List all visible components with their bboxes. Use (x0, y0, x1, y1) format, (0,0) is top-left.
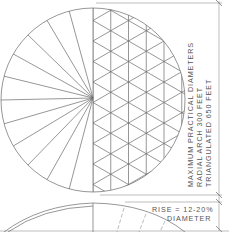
radial-arch-ribs (1, 11, 93, 189)
label-line-1: MAXIMUM PRACTICAL DIAMETERS (186, 42, 195, 187)
inner-shell (8, 206, 93, 232)
plan-view (0, 0, 200, 232)
rise-line-1: RISE = 12-20% (152, 205, 213, 214)
label-line-2: RADIAL ARCH 300 FEET (195, 87, 204, 187)
rise-label: RISE = 12-20% DIAMETER (152, 205, 213, 223)
outer-shell (4, 203, 93, 232)
rise-line-2: DIAMETER (167, 214, 211, 223)
diameter-label: MAXIMUM PRACTICAL DIAMETERS RADIAL ARCH … (186, 42, 213, 187)
dome-diagram: MAXIMUM PRACTICAL DIAMETERS RADIAL ARCH … (0, 0, 229, 232)
label-line-3: TRIANGULATED 650 FEET (204, 79, 213, 187)
